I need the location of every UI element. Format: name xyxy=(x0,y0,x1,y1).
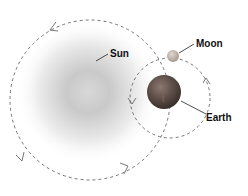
earth-leader-line xyxy=(181,101,206,114)
orbit-arrow-icon xyxy=(16,152,24,161)
sun-earth-moon-diagram: Sun Moon Earth xyxy=(0,0,248,196)
moon-leader-line xyxy=(179,44,194,53)
moon xyxy=(167,50,179,62)
sun xyxy=(16,20,160,164)
moon-label: Moon xyxy=(196,38,223,49)
sun-label: Sun xyxy=(110,48,129,59)
orbit-arrow-icon xyxy=(203,78,210,84)
earth-label: Earth xyxy=(206,112,232,123)
